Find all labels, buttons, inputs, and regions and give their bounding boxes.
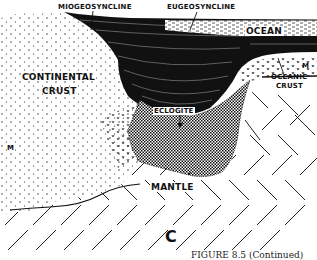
continental-crust-label-line2: CRUST (42, 86, 76, 96)
mantle-label: MANTLE (150, 182, 195, 192)
figure-caption: FIGURE 8.5 (Continued) (191, 250, 303, 260)
oceanic-crust-label-line2: CRUST (276, 82, 303, 90)
oceanic-crust-label-line1: OCEANIC (271, 73, 307, 81)
ocean-label: OCEAN (245, 26, 283, 36)
eugeosyncline-label: EUGEOSYNCLINE (167, 3, 235, 11)
miogeosyncline-label: MIOGEOSYNCLINE (58, 3, 132, 11)
panel-letter: C (165, 227, 177, 246)
moho-label-right: M (302, 62, 309, 70)
moho-label-left: M (7, 144, 14, 152)
continental-crust-label-line1: CONTINENTAL (22, 72, 95, 82)
eclogite-label: ECLOGITE (153, 107, 195, 115)
